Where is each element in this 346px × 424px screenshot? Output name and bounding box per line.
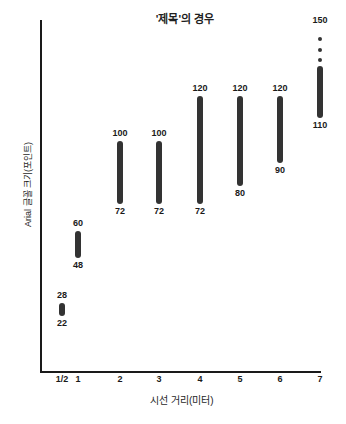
chart-title: '제목'의 경우 [0, 10, 346, 26]
range-bar [117, 141, 123, 204]
range-low-label: 72 [195, 206, 205, 216]
y-axis-line [40, 20, 42, 373]
range-high-label: 120 [272, 83, 287, 93]
range-low-label: 72 [154, 206, 164, 216]
x-tick-label: 1/2 [56, 374, 69, 384]
dot [318, 58, 322, 62]
range-low-label: 48 [73, 260, 83, 270]
range-low-label: 72 [115, 206, 125, 216]
range-high-label: 60 [73, 218, 83, 228]
range-high-label: 120 [192, 83, 207, 93]
range-bar [277, 96, 283, 164]
range-bar [156, 141, 162, 204]
x-axis-title: 시선 거리(미터) [40, 392, 346, 407]
x-tick-label: 2 [117, 374, 122, 384]
x-tick-label: 4 [197, 374, 202, 384]
range-bar [59, 303, 65, 317]
range-high-label: 150 [312, 15, 327, 25]
range-bar [197, 96, 203, 204]
x-tick-label: 3 [156, 374, 161, 384]
range-low-label: 22 [57, 318, 67, 328]
range-bar [75, 231, 81, 258]
range-bar [237, 96, 243, 186]
range-low-label: 80 [235, 188, 245, 198]
chart-title-text: '제목'의 경우 [156, 10, 214, 26]
x-tick-label: 6 [277, 374, 282, 384]
x-tick-label: 1 [75, 374, 80, 384]
range-bar [317, 66, 323, 118]
range-high-label: 100 [151, 128, 166, 138]
range-high-label: 100 [112, 128, 127, 138]
x-tick-label: 7 [317, 374, 322, 384]
chart-container: '제목'의 경우 Arial 글꼴 크기(포인트) 시선 거리(미터) 1/21… [0, 0, 346, 424]
range-high-label: 28 [57, 290, 67, 300]
y-axis-title: Arial 글꼴 크기(포인트) [21, 110, 34, 260]
range-high-label: 120 [232, 83, 247, 93]
x-tick-label: 5 [237, 374, 242, 384]
dot [318, 37, 322, 41]
dot [318, 48, 322, 52]
range-low-label: 110 [313, 120, 328, 130]
range-bar-continuation-dots [318, 37, 322, 62]
x-axis-line [40, 371, 321, 373]
range-low-label: 90 [275, 165, 285, 175]
